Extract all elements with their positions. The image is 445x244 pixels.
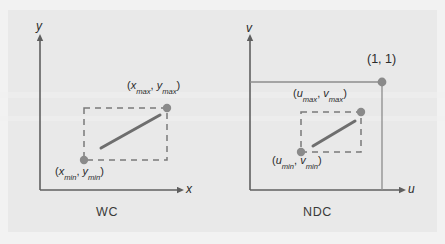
ndc-min-point-label: (umin, vmin) [272, 155, 322, 166]
wc-max-point-label: (xmax, ymax) [127, 80, 180, 91]
ndc-viewport [301, 112, 361, 152]
ndc-object-segment [313, 121, 355, 146]
wc-min-point-label: (xmin, ymin) [55, 166, 104, 177]
wc-x-axis-label: x [186, 183, 192, 195]
ndc-panel-graphics [0, 0, 445, 244]
wc-y-axis-label: y [36, 20, 42, 32]
wc-panel-caption: WC [96, 206, 118, 219]
ndc-max-point-label: (umax, vmax) [293, 88, 347, 99]
ndc-panel-caption: NDC [303, 206, 332, 219]
ndc-unit-corner-dot [378, 78, 387, 87]
ndc-max-point-dot [357, 108, 365, 116]
ndc-u-axis-label: u [408, 183, 415, 195]
ndc-unit-corner-label: (1, 1) [367, 53, 396, 66]
ndc-v-axis-label: v [246, 22, 252, 34]
figure-canvas: y x (xmax, ymax) (xmin, ymin) WC v u (1,… [0, 0, 445, 244]
